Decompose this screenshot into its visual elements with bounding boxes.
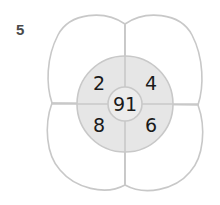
- ring-top-left: 2: [93, 72, 105, 94]
- ring-bottom-left: 8: [93, 114, 105, 136]
- center-value: 91: [113, 93, 137, 115]
- ring-bottom-right: 6: [145, 114, 157, 136]
- ring-top-right: 4: [145, 72, 157, 94]
- flower-diagram: 2 4 8 6 91: [0, 0, 220, 205]
